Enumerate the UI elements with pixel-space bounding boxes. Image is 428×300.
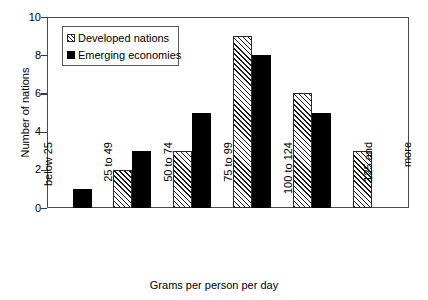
y-axis-title: Number of nations — [16, 17, 34, 208]
bar-emerging-100-124 — [312, 113, 331, 209]
x-tick-label-below-25: below 25 — [42, 142, 56, 212]
x-tick-label-100-124: 100 to 124 — [282, 142, 296, 212]
bar-chart-figure: Number of nations 10 8 6 4 2 0 Developed — [0, 0, 428, 300]
y-tick-label-6: 6 — [15, 88, 41, 99]
legend-label-developed-nations: Developed nations — [78, 32, 169, 44]
legend-entry-emerging-economies: Emerging economies — [67, 48, 181, 62]
legend-swatch-hatched-icon — [67, 34, 75, 42]
y-tick-label-0: 0 — [15, 203, 41, 214]
y-tick-label-8: 8 — [15, 50, 41, 61]
legend-label-emerging-economies: Emerging economies — [78, 49, 181, 61]
bar-emerging-50-74 — [192, 113, 211, 209]
x-tick-label-125-and-more-line2: more — [401, 142, 414, 212]
x-tick-label-75-99: 75 to 99 — [222, 142, 236, 212]
x-tick-label-25-49: 25 to 49 — [102, 142, 116, 212]
legend-swatch-solid-icon — [67, 51, 75, 59]
bar-emerging-25-49 — [132, 151, 151, 208]
bar-emerging-75-99 — [252, 55, 271, 208]
x-tick-label-125-and-more-line1: 125 and — [362, 142, 375, 212]
bar-emerging-below-25 — [73, 189, 92, 208]
chart-legend: Developed nations Emerging economies — [62, 26, 179, 66]
y-tick-label-2: 2 — [15, 164, 41, 175]
y-tick-label-4: 4 — [15, 126, 41, 137]
x-axis-title: Grams per person per day — [0, 279, 428, 292]
legend-entry-developed-nations: Developed nations — [67, 31, 169, 45]
x-tick-label-125-and-more: 125 and more — [336, 142, 364, 212]
x-tick-label-50-74: 50 to 74 — [162, 142, 176, 212]
y-tick-label-10: 10 — [15, 12, 41, 23]
